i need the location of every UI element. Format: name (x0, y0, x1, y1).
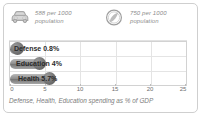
stat-vehicles: 588 per 1000 population (9, 8, 104, 27)
car-icon (9, 8, 31, 27)
bar-row-defense: Defense 0.8% (10, 42, 186, 57)
x-tick-0: 0 (10, 86, 13, 92)
x-tick-15: 15 (112, 86, 119, 92)
bar-label-education: Education 4% (16, 58, 62, 70)
telephone-circle-icon (104, 8, 126, 27)
chart-x-axis: 0 5 10 15 20 25 (9, 86, 187, 95)
x-tick-20: 20 (147, 86, 154, 92)
bar-label-defense: Defense 0.8% (14, 43, 59, 55)
bar-row-health: Health 5.7% (10, 72, 186, 87)
statistics-row: 588 per 1000 population 750 per 1000 pop… (9, 8, 192, 37)
stat-vehicles-text: 588 per 1000 population (35, 10, 72, 25)
chart-caption: Defense, Health, Education spending as %… (9, 96, 189, 105)
bar-chart: Defense 0.8% Education 4% Health 5.7% (9, 41, 187, 86)
bar-label-health: Health 5.7% (18, 73, 57, 85)
stat-telephones: 750 per 1000 population (104, 8, 192, 27)
x-tick-5: 5 (43, 86, 46, 92)
x-tick-10: 10 (77, 86, 84, 92)
chart-bars: Defense 0.8% Education 4% Health 5.7% (10, 42, 186, 85)
bar-row-education: Education 4% (10, 57, 186, 72)
x-tick-25: 25 (180, 86, 187, 92)
stat-telephones-text: 750 per 1000 population (130, 10, 167, 25)
infographic-panel: 588 per 1000 population 750 per 1000 pop… (0, 0, 201, 116)
